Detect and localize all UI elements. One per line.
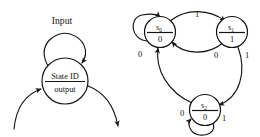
state-s0-output-label: 0 [158, 35, 162, 44]
legend-input-label: Input [52, 15, 73, 26]
edge-label-s0-s0: 0 [138, 50, 142, 59]
state-node-s1: s1 1 [217, 17, 248, 48]
edge-label-s0-s1: 1 [195, 10, 199, 19]
legend-incoming-arrow [14, 89, 41, 129]
state-s1-output-label: 1 [230, 35, 234, 44]
transition-s2-s0-arrow [158, 48, 192, 103]
edge-label-s1-s0: 0 [214, 51, 218, 60]
edge-label-s2-s0: 0 [180, 109, 184, 118]
three-state-diagram: s0 0 s1 1 s2 0 0 1 0 1 0 [133, 10, 249, 135]
edge-label-s1-s2: 1 [245, 51, 249, 60]
transition-s1-s2-arrow [219, 47, 242, 105]
state-diagram-figure: State ID output Input s0 0 [0, 0, 260, 137]
edge-label-s2-s2: 1 [222, 114, 226, 123]
diagram-canvas: State ID output Input s0 0 [0, 0, 260, 137]
legend-state-id-label: State ID [51, 72, 79, 81]
state-node-s2: s2 0 [190, 95, 221, 126]
legend-outgoing-arrow [88, 86, 118, 126]
state-notation-legend: State ID output Input [14, 15, 118, 129]
state-node-s0: s0 0 [145, 17, 176, 48]
legend-output-label: output [54, 85, 76, 94]
state-s2-output-label: 0 [203, 113, 207, 122]
